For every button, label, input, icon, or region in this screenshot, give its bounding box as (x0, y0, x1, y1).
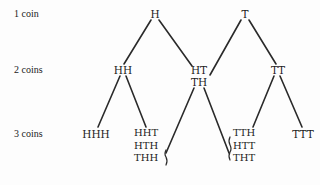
node-HTT: HTT (233, 140, 255, 153)
node-TT: TT (271, 64, 285, 76)
node-HT: HT (191, 64, 207, 76)
brace-right (229, 137, 231, 160)
edge-T-TH (210, 20, 241, 75)
node-HH: HH (114, 64, 132, 76)
edge-HTTH-left (166, 88, 194, 153)
edge-HTTH-right (204, 88, 229, 153)
node-THH: THH (134, 152, 158, 165)
node-TTH: TTH (233, 127, 255, 140)
edge-H-HH (124, 20, 151, 64)
node-TH: TH (191, 76, 207, 88)
coin-toss-tree-diagram: 1 coin 2 coins 3 coins H T HH HT TH TT H… (0, 0, 320, 185)
edge-H-HT (159, 20, 192, 66)
edge-HH-HHT (126, 76, 146, 127)
edge-TT-TTH (253, 76, 274, 127)
node-HHH: HHH (82, 128, 109, 140)
edge-T-TT (249, 20, 276, 64)
node-group-HHT-HTH-THH: HHT HTH THH (134, 127, 158, 165)
node-HTH: HTH (134, 140, 158, 153)
row-label-3-coins: 3 coins (14, 128, 43, 139)
node-TTT: TTT (292, 128, 313, 140)
node-T: T (241, 8, 248, 20)
node-group-TTH-HTT-THT: TTH HTT THT (233, 127, 255, 165)
node-H: H (150, 8, 159, 20)
edge-TT-TTT (280, 76, 302, 127)
tree-edges (0, 0, 320, 185)
row-label-1-coin: 1 coin (14, 8, 39, 19)
row-label-2-coins: 2 coins (14, 64, 43, 75)
node-HHT: HHT (134, 127, 158, 140)
edge-HH-HHH (98, 76, 120, 127)
node-THT: THT (233, 152, 255, 165)
